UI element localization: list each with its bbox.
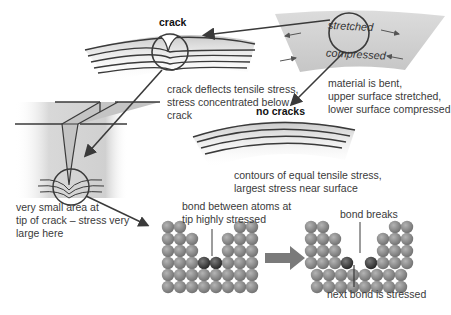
atom xyxy=(395,269,407,281)
atom xyxy=(389,245,401,257)
atom xyxy=(317,245,329,257)
atom xyxy=(246,233,258,245)
atom xyxy=(222,233,234,245)
atom xyxy=(174,245,186,257)
atom xyxy=(174,281,186,293)
atom xyxy=(329,245,341,257)
crack-title: crack xyxy=(159,16,186,28)
atom xyxy=(317,221,329,233)
atom xyxy=(162,257,174,269)
atom xyxy=(335,269,347,281)
atom xyxy=(234,245,246,257)
atom xyxy=(329,233,341,245)
stressed-atom xyxy=(198,257,210,269)
atom xyxy=(317,233,329,245)
atom xyxy=(246,269,258,281)
atom xyxy=(383,269,395,281)
atom xyxy=(305,257,317,269)
atom-lattice-after xyxy=(305,221,413,293)
atom xyxy=(162,221,174,233)
atom xyxy=(174,269,186,281)
small-area-caption: very small area at tip of crack – stress… xyxy=(16,201,129,240)
atom xyxy=(371,269,383,281)
atom xyxy=(389,221,401,233)
atom xyxy=(162,281,174,293)
atom xyxy=(186,257,198,269)
atom xyxy=(246,257,258,269)
atom xyxy=(246,281,258,293)
stressed-atom xyxy=(210,257,222,269)
atom xyxy=(329,257,341,269)
no-cracks-band xyxy=(193,121,355,168)
atom xyxy=(198,281,210,293)
atom xyxy=(198,269,210,281)
atom xyxy=(246,245,258,257)
atom xyxy=(162,233,174,245)
atom xyxy=(186,245,198,257)
atom xyxy=(186,269,198,281)
atom xyxy=(305,245,317,257)
atom xyxy=(401,221,413,233)
atom-lattice-before xyxy=(162,221,258,293)
atom xyxy=(305,221,317,233)
atom xyxy=(186,233,198,245)
bond-between-caption: bond between atoms at tip highly stresse… xyxy=(182,200,291,226)
atom xyxy=(311,269,323,281)
material-bent-caption: material is bent, upper surface stretche… xyxy=(328,77,451,116)
atom xyxy=(401,233,413,245)
atom xyxy=(222,281,234,293)
atom xyxy=(234,281,246,293)
atom xyxy=(401,257,413,269)
atom xyxy=(389,257,401,269)
atom xyxy=(162,269,174,281)
atom xyxy=(234,233,246,245)
atom xyxy=(210,281,222,293)
atom xyxy=(210,269,222,281)
atom xyxy=(401,245,413,257)
atom xyxy=(234,269,246,281)
atom xyxy=(323,269,335,281)
atom xyxy=(234,257,246,269)
stressed-atom xyxy=(341,257,353,269)
next-bond-caption: next bond is stressed xyxy=(327,288,426,301)
atom xyxy=(222,245,234,257)
atom xyxy=(311,281,323,293)
atom xyxy=(174,233,186,245)
crack-band xyxy=(85,34,255,82)
atom xyxy=(186,281,198,293)
transition-arrow xyxy=(265,246,305,270)
atom xyxy=(389,233,401,245)
stretched-label: stretched xyxy=(328,19,374,33)
atom xyxy=(317,257,329,269)
bond-breaks-caption: bond breaks xyxy=(340,208,398,221)
atom xyxy=(377,257,389,269)
atom xyxy=(162,245,174,257)
atom xyxy=(174,257,186,269)
atom xyxy=(305,233,317,245)
crack-deflects-caption: crack deflects tensile stress, stress co… xyxy=(167,83,298,122)
atom xyxy=(377,245,389,257)
stressed-atom xyxy=(365,257,377,269)
contours-caption: contours of equal tensile stress, larges… xyxy=(234,169,382,195)
atom xyxy=(222,257,234,269)
atom xyxy=(377,233,389,245)
atom xyxy=(359,269,371,281)
atom xyxy=(347,269,359,281)
atom xyxy=(222,269,234,281)
